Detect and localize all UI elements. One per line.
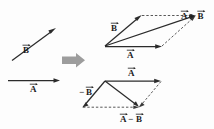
label-a-top-text: A	[127, 50, 134, 60]
label-minus-b: − B	[79, 86, 94, 97]
label-a-minus-b-first: A	[120, 114, 127, 124]
label-a-minus-b-operator: −	[128, 114, 133, 124]
label-b-left-text: B	[23, 45, 29, 55]
label-a-plus-b-operator: +	[189, 11, 194, 21]
label-minus-b-sign: −	[79, 87, 84, 97]
label-minus-b-text: B	[86, 87, 92, 97]
label-b-top-text: B	[111, 23, 117, 33]
label-a-bottom-text: A	[128, 68, 135, 78]
vector-diagram-figure: B A	[0, 0, 214, 129]
label-a-plus-b-first: A	[181, 11, 188, 21]
label-a-minus-b-second: B	[136, 114, 142, 124]
label-a-minus-b: A − B	[120, 113, 144, 124]
label-a-plus-b: A + B	[181, 10, 206, 21]
label-a-left-text: A	[30, 84, 37, 94]
label-a-plus-b-second: B	[198, 11, 204, 21]
vector-diagram-canvas: B A	[0, 0, 214, 129]
